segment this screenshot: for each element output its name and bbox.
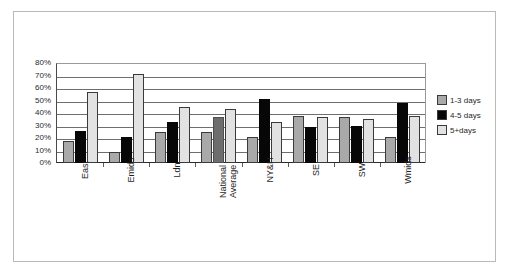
- bar[interactable]: [63, 141, 74, 164]
- legend-label: 5+days: [450, 126, 476, 135]
- bar[interactable]: [133, 74, 144, 163]
- y-axis-tick-labels: 80%70%60%50%40%30%20%10%0%: [14, 56, 54, 170]
- x-axis-label-ny-h: NY&H: [242, 168, 288, 230]
- x-axis-label-text: NY&H: [265, 157, 275, 182]
- x-axis-label-national-average: National Average: [195, 168, 241, 230]
- bar[interactable]: [397, 103, 408, 163]
- chart-frame: 80%70%60%50%40%30%20%10%0% EastEmidsLdnN…: [13, 11, 496, 262]
- x-tick-mark: [195, 163, 196, 167]
- bar[interactable]: [317, 117, 328, 163]
- bar[interactable]: [363, 119, 374, 163]
- x-tick-mark: [380, 163, 381, 167]
- bar[interactable]: [293, 116, 304, 164]
- legend-label: 1-3 days: [450, 96, 481, 105]
- y-tick-label: 40%: [35, 109, 51, 117]
- y-tick-label: 60%: [35, 84, 51, 92]
- x-axis-label-text: Emids: [126, 157, 136, 182]
- bar-group: [334, 63, 380, 163]
- y-tick-label: 30%: [35, 122, 51, 130]
- bar[interactable]: [385, 137, 396, 163]
- bar-chart: 80%70%60%50%40%30%20%10%0% EastEmidsLdnN…: [14, 12, 497, 263]
- chart-legend: 1-3 days4-5 days5+days: [437, 95, 495, 140]
- x-tick-mark: [242, 163, 243, 167]
- x-tick-mark: [149, 163, 150, 167]
- bar[interactable]: [179, 107, 190, 163]
- x-axis-category-labels: EastEmidsLdnNational AverageNY&HSESWWmid…: [57, 168, 426, 230]
- x-axis-ticks: [57, 163, 426, 167]
- legend-item[interactable]: 5+days: [437, 125, 495, 135]
- bar[interactable]: [259, 99, 270, 163]
- bar-groups: [57, 63, 426, 163]
- y-tick-label: 10%: [35, 147, 51, 155]
- x-axis-label-wmids: Wmids: [380, 168, 426, 230]
- bar-group: [288, 63, 334, 163]
- bar-group: [380, 63, 426, 163]
- bar-group: [149, 63, 195, 163]
- bar[interactable]: [201, 132, 212, 163]
- x-tick-mark: [103, 163, 104, 167]
- bar[interactable]: [167, 122, 178, 163]
- bar-group: [242, 63, 288, 163]
- x-axis-label-ldn: Ldn: [149, 168, 195, 230]
- x-axis-label-east: East: [57, 168, 103, 230]
- x-tick-mark: [288, 163, 289, 167]
- legend-swatch-icon: [437, 125, 447, 135]
- x-axis-label-text: SE: [311, 164, 321, 176]
- legend-item[interactable]: 4-5 days: [437, 110, 495, 120]
- x-tick-mark: [334, 163, 335, 167]
- bar[interactable]: [305, 127, 316, 163]
- x-axis-label-text: SW: [357, 163, 367, 178]
- bar[interactable]: [247, 137, 258, 163]
- y-tick-label: 20%: [35, 134, 51, 142]
- y-tick-label: 50%: [35, 97, 51, 105]
- bar[interactable]: [109, 152, 120, 163]
- y-tick-label: 0%: [39, 159, 51, 167]
- x-axis-label-sw: SW: [334, 168, 380, 230]
- x-axis-label-se: SE: [288, 168, 334, 230]
- bar[interactable]: [87, 92, 98, 163]
- x-axis-label-text: Ldn: [172, 162, 182, 177]
- x-axis-label-text: East: [80, 161, 90, 179]
- y-tick-label: 80%: [35, 59, 51, 67]
- bar[interactable]: [339, 117, 350, 163]
- x-axis-label-text: National Average: [218, 142, 238, 198]
- legend-swatch-icon: [437, 95, 447, 105]
- legend-item[interactable]: 1-3 days: [437, 95, 495, 105]
- bar[interactable]: [155, 132, 166, 163]
- x-axis-label-text: Wmids: [403, 156, 413, 184]
- x-axis-label-emids: Emids: [103, 168, 149, 230]
- legend-swatch-icon: [437, 110, 447, 120]
- bar[interactable]: [351, 126, 362, 164]
- bar-group: [103, 63, 149, 163]
- y-tick-label: 70%: [35, 72, 51, 80]
- bar-group: [57, 63, 103, 163]
- legend-label: 4-5 days: [450, 111, 481, 120]
- bar[interactable]: [75, 131, 86, 164]
